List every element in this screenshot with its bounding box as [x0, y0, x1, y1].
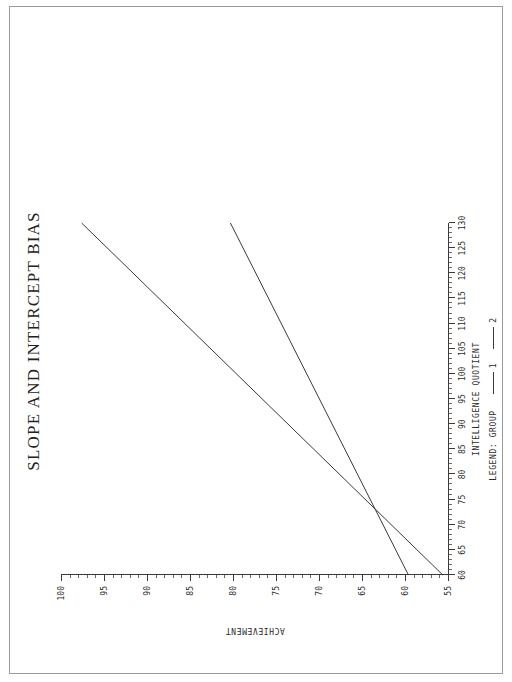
- x-tick-minor: [449, 257, 452, 258]
- x-tick-minor: [449, 443, 452, 444]
- y-tick-major: [448, 575, 449, 581]
- x-tick-minor: [449, 262, 452, 263]
- x-tick-major: [449, 297, 455, 298]
- y-tick-minor: [396, 575, 397, 578]
- y-tick-minor: [371, 575, 372, 578]
- x-tick-minor: [449, 227, 452, 228]
- legend-entry-label: 1: [489, 363, 498, 368]
- y-tick-label: 80: [229, 586, 238, 596]
- y-tick-minor: [302, 575, 303, 578]
- y-tick-major: [104, 575, 105, 581]
- x-tick-minor: [449, 478, 452, 479]
- x-tick-minor: [449, 438, 452, 439]
- x-tick-label: 115: [458, 291, 467, 305]
- y-tick-minor: [138, 575, 139, 578]
- legend-entries: 12: [489, 317, 498, 394]
- x-tick-major: [449, 323, 455, 324]
- plot-area: SLOPE AND INTERCEPT BIAS 606570758085909…: [0, 0, 512, 682]
- x-tick-minor: [449, 232, 452, 233]
- x-tick-minor: [449, 504, 452, 505]
- x-tick-minor: [449, 363, 452, 364]
- y-tick-minor: [130, 575, 131, 578]
- x-tick-minor: [449, 413, 452, 414]
- series-line-2: [230, 223, 408, 575]
- x-tick-major: [449, 272, 455, 273]
- y-axis-title: ACHIEVEMENT: [225, 626, 285, 635]
- x-tick-minor: [449, 554, 452, 555]
- y-tick-label: 70: [315, 586, 324, 596]
- y-axis-line: [61, 574, 449, 575]
- x-tick-minor: [449, 534, 452, 535]
- legend-title: LEGEND: GROUP: [489, 410, 498, 480]
- y-tick-minor: [259, 575, 260, 578]
- y-tick-label: 75: [272, 586, 281, 596]
- y-tick-minor: [164, 575, 165, 578]
- x-tick-major: [449, 423, 455, 424]
- y-tick-minor: [95, 575, 96, 578]
- chart-page: SLOPE AND INTERCEPT BIAS 606570758085909…: [0, 0, 512, 682]
- y-tick-major: [319, 575, 320, 581]
- x-tick-minor: [449, 292, 452, 293]
- x-tick-label: 85: [458, 444, 467, 454]
- x-tick-minor: [449, 378, 452, 379]
- x-tick-minor: [449, 529, 452, 530]
- x-tick-major: [449, 222, 455, 223]
- x-tick-minor: [449, 494, 452, 495]
- x-tick-minor: [449, 559, 452, 560]
- y-tick-minor: [439, 575, 440, 578]
- legend: LEGEND: GROUP 12: [489, 223, 498, 575]
- y-tick-minor: [310, 575, 311, 578]
- x-tick-minor: [449, 484, 452, 485]
- y-tick-minor: [87, 575, 88, 578]
- x-tick-minor: [449, 353, 452, 354]
- x-tick-label: 125: [458, 241, 467, 255]
- x-tick-minor: [449, 408, 452, 409]
- y-tick-major: [405, 575, 406, 581]
- x-tick-minor: [449, 509, 452, 510]
- y-tick-minor: [224, 575, 225, 578]
- legend-entry-1[interactable]: 1: [489, 363, 498, 394]
- x-tick-major: [449, 549, 455, 550]
- legend-entry-2[interactable]: 2: [489, 317, 498, 348]
- y-tick-minor: [336, 575, 337, 578]
- y-tick-label: 95: [100, 586, 109, 596]
- x-tick-minor: [449, 282, 452, 283]
- x-tick-minor: [449, 318, 452, 319]
- y-tick-label: 60: [401, 586, 410, 596]
- x-tick-minor: [449, 368, 452, 369]
- y-tick-minor: [121, 575, 122, 578]
- x-axis-line: [448, 223, 449, 575]
- x-tick-minor: [449, 242, 452, 243]
- y-tick-label: 85: [186, 586, 195, 596]
- x-tick-minor: [449, 453, 452, 454]
- x-tick-label: 120: [458, 266, 467, 280]
- x-tick-minor: [449, 333, 452, 334]
- x-tick-minor: [449, 403, 452, 404]
- x-tick-major: [449, 247, 455, 248]
- y-tick-minor: [285, 575, 286, 578]
- y-tick-minor: [216, 575, 217, 578]
- y-tick-minor: [422, 575, 423, 578]
- y-tick-minor: [267, 575, 268, 578]
- y-tick-minor: [78, 575, 79, 578]
- legend-entry-label: 2: [489, 317, 498, 322]
- y-tick-major: [276, 575, 277, 581]
- x-tick-minor: [449, 539, 452, 540]
- y-tick-minor: [181, 575, 182, 578]
- y-tick-minor: [199, 575, 200, 578]
- x-tick-minor: [449, 468, 452, 469]
- legend-line-swatch: [493, 327, 494, 349]
- x-tick-major: [449, 473, 455, 474]
- x-tick-minor: [449, 388, 452, 389]
- x-tick-label: 95: [458, 394, 467, 404]
- y-tick-major: [362, 575, 363, 581]
- x-axis-title: INTELLIGENCE QUOTIENT: [472, 223, 481, 575]
- x-tick-minor: [449, 328, 452, 329]
- x-tick-major: [449, 524, 455, 525]
- x-tick-label: 105: [458, 341, 467, 355]
- x-tick-major: [449, 448, 455, 449]
- x-tick-minor: [449, 267, 452, 268]
- x-tick-major: [449, 398, 455, 399]
- y-tick-label: 65: [358, 586, 367, 596]
- rotated-chart-container: SLOPE AND INTERCEPT BIAS 606570758085909…: [0, 0, 512, 682]
